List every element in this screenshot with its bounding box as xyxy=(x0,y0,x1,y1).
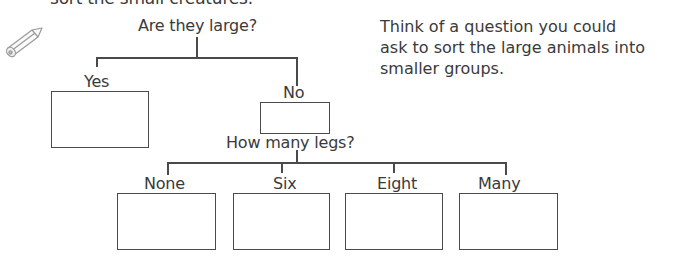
many-label: Many xyxy=(478,174,520,193)
no-label: No xyxy=(283,83,304,102)
yes-label: Yes xyxy=(84,72,109,91)
six-label: Six xyxy=(273,174,296,193)
instruction-line-1: Think of a question you could xyxy=(380,16,690,37)
many-answer-box[interactable] xyxy=(459,193,558,250)
no-drop-line xyxy=(296,57,298,86)
instruction-text: Think of a question you could ask to sor… xyxy=(380,16,690,79)
six-answer-box[interactable] xyxy=(233,193,330,250)
none-answer-box[interactable] xyxy=(117,193,216,250)
no-answer-box[interactable] xyxy=(260,102,330,134)
yes-drop-line xyxy=(96,57,98,67)
sub-question: How many legs? xyxy=(226,133,355,152)
none-label: None xyxy=(144,174,185,193)
eight-label: Eight xyxy=(377,174,417,193)
six-drop-line xyxy=(281,162,283,173)
instruction-line-2: ask to sort the large animals into xyxy=(380,37,690,58)
instruction-line-3: smaller groups. xyxy=(380,58,690,79)
yes-answer-box[interactable] xyxy=(51,91,149,148)
root-question: Are they large? xyxy=(138,16,257,35)
pencil-icon xyxy=(2,24,44,60)
root-stem-line xyxy=(196,37,198,57)
cropped-header-text: sort the small creatures. xyxy=(50,0,253,8)
eight-answer-box[interactable] xyxy=(345,193,443,250)
root-branch-line xyxy=(96,57,298,59)
sub-branch-line xyxy=(167,162,506,164)
eight-drop-line xyxy=(393,162,395,173)
